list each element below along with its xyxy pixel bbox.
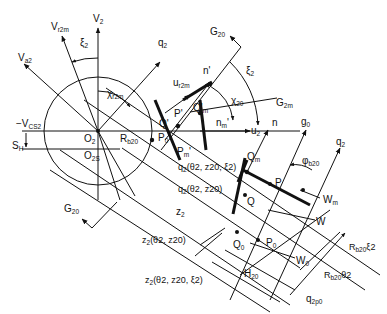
label-q-prime: Q' [159, 119, 169, 129]
label-q2-theta-z20-xi2: q2(θ2, z20, ξ2) [178, 163, 236, 174]
diagram-canvas: V2 Vr2m Va2 ξ2 χr2m q2 G20 n' ξ2 ur2m χ2… [0, 0, 387, 314]
label-rb20: Rb20 [120, 134, 138, 146]
label-ur2m: ur2m [173, 78, 190, 90]
label-q2-theta-z20: q2(θ2, z20) [178, 185, 222, 196]
label-g2m: G2m [276, 98, 293, 110]
label-phi-b20: φb20 [302, 156, 319, 168]
label-n-prime: n' [203, 66, 210, 76]
label-rb20-theta2: Rb20θ2 [324, 271, 351, 282]
label-chi-r2m: χr2m [107, 89, 123, 101]
label-z2-theta-z20: z2(θ2, z20) [142, 236, 186, 247]
label-o2s: O2S [84, 151, 100, 163]
label-sh: SH [12, 141, 23, 153]
label-w0: W0 [296, 256, 309, 268]
label-wm: Wm [323, 195, 338, 207]
label-h20: H20 [244, 269, 258, 281]
label-z2: z2 [176, 207, 185, 219]
label-nm-prime: nm' [216, 118, 229, 130]
label-q2-right: q2 [336, 137, 345, 149]
label-pm-prime: Pm' [177, 147, 191, 159]
label-p: P [275, 178, 282, 188]
label-z2-theta-z20-xi2: z2(θ2, z20, ξ2) [145, 276, 203, 287]
label-p-prime: P' [174, 109, 183, 119]
label-u2: u2 [251, 126, 260, 138]
label-g20-top: G20 [210, 27, 225, 39]
label-p0: P0 [266, 238, 276, 250]
label-w: W [316, 217, 325, 227]
label-minus-vcs2: −VCS2 [16, 119, 41, 131]
label-n: n [272, 118, 278, 128]
label-qm: Qm [247, 152, 260, 164]
label-v2: V2 [93, 14, 103, 26]
label-rb20-xi2: Rb20ξ2 [349, 243, 375, 254]
label-q2-top: q2 [158, 38, 167, 50]
label-o2: O2 [84, 134, 95, 146]
geometry-drawing [0, 0, 387, 314]
label-xi2-right: ξ2 [246, 66, 254, 78]
label-vr2m: Vr2m [51, 22, 69, 34]
label-g20-bottom: G20 [64, 204, 79, 216]
label-g0: g0 [301, 117, 310, 129]
label-xi2-top: ξ2 [80, 38, 88, 50]
label-q2p0: q2p0 [306, 294, 322, 306]
label-chi20: χ20 [231, 96, 243, 108]
label-va2: Va2 [18, 53, 32, 65]
label-q: Q [247, 197, 255, 207]
label-qm-prime: Q'm [193, 103, 208, 115]
label-p0-left: P0 [158, 133, 168, 145]
label-q0: Q0 [233, 240, 244, 252]
